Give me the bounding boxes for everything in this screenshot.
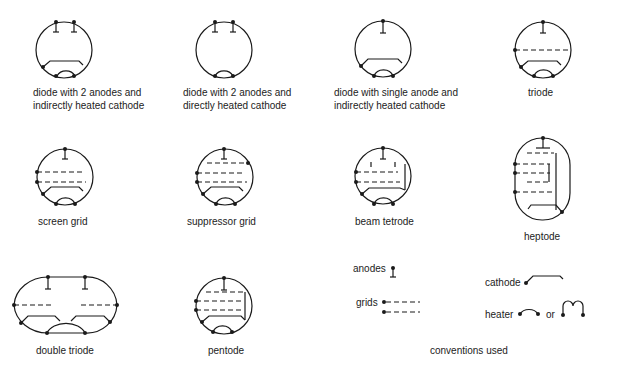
label-double-triode: double triode <box>36 344 94 357</box>
anode-convention-symbol <box>390 266 396 277</box>
label-anodes: anodes <box>353 262 386 275</box>
label-suppressor-grid: suppressor grid <box>187 215 256 228</box>
label-triode: triode <box>528 86 553 99</box>
double-triode-symbol <box>12 275 119 335</box>
screen-grid-symbol <box>35 147 93 206</box>
label-diode-2a-ihc: diode with 2 anodes and indirectly heate… <box>33 86 144 112</box>
diode-2-anodes-direct-symbol <box>196 20 252 78</box>
valve-symbols-diagram: .s { fill: none; stroke: #1a1a1a; stroke… <box>0 0 631 368</box>
label-diode-2a-dhc: diode with 2 anodes and directly heated … <box>183 86 291 112</box>
label-screen-grid: screen grid <box>38 215 87 228</box>
grid-convention-symbol <box>382 300 420 314</box>
label-or: or <box>546 308 555 321</box>
triode-symbol <box>513 20 571 78</box>
suppressor-grid-symbol <box>195 147 253 206</box>
heater-convention-symbol <box>518 309 540 316</box>
label-cathode: cathode <box>485 276 521 289</box>
diode-2-anodes-indirect-symbol <box>36 20 92 78</box>
label-conventions-used: conventions used <box>430 344 508 357</box>
beam-tetrode-symbol <box>354 146 411 206</box>
pentode-symbol <box>194 276 252 334</box>
heater-alt-convention-symbol <box>561 301 585 317</box>
label-pentode: pentode <box>208 344 244 357</box>
diode-single-anode-indirect-symbol <box>355 19 411 78</box>
label-diode-1a-ihc: diode with single anode and indirectly h… <box>334 86 458 112</box>
heptode-symbol <box>513 136 570 220</box>
label-beam-tetrode: beam tetrode <box>355 215 414 228</box>
label-heater: heater <box>485 308 513 321</box>
label-grids: grids <box>356 296 378 309</box>
label-heptode: heptode <box>524 230 560 243</box>
cathode-convention-symbol <box>524 276 563 285</box>
